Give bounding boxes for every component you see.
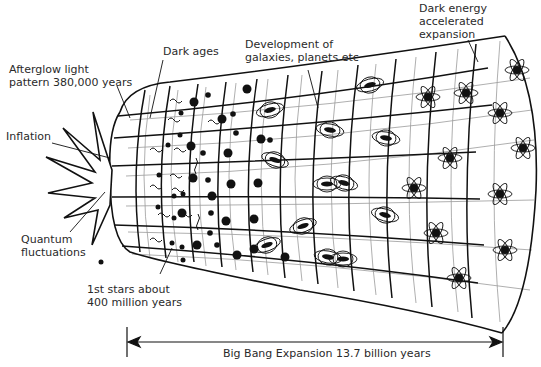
starburst-icon	[46, 112, 112, 245]
label-dark-energy: Dark energy accelerated expansion	[419, 2, 487, 41]
label-dark-ages: Dark ages	[163, 45, 219, 58]
label-afterglow: Afterglow light pattern 380,000 years	[9, 63, 132, 89]
label-quantum-fluctuations: Quantum fluctuations	[21, 233, 86, 259]
label-development: Development of galaxies, planets etc	[245, 38, 359, 64]
label-timeline: Big Bang Expansion 13.7 billion years	[223, 347, 431, 360]
label-first-stars: 1st stars about 400 million years	[87, 283, 182, 309]
galaxies	[251, 74, 401, 268]
big-bang-diagram: Afterglow light pattern 380,000 years Da…	[0, 0, 541, 367]
squiggles	[150, 99, 220, 242]
label-inflation: Inflation	[6, 130, 51, 143]
